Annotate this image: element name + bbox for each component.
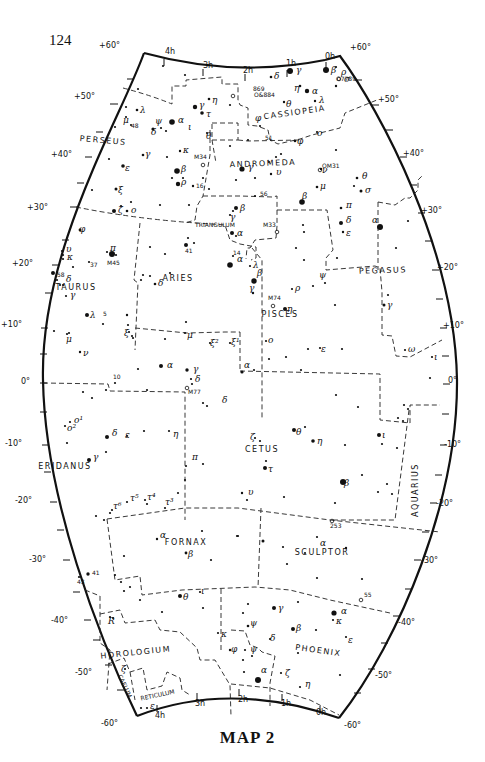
star-number-label: 58 — [57, 271, 65, 278]
star-greek-label: ψ — [155, 116, 163, 126]
declination-label: +60° — [350, 43, 371, 52]
star-greek-label: δ — [222, 395, 227, 405]
deep-sky-object-label: O7789 — [336, 75, 356, 82]
deep-sky-object-label: M74 — [268, 294, 281, 301]
declination-labels-right: +60°+50°+40°+30°+20°+10°0°-10°-20°-30°-4… — [344, 43, 464, 730]
star-greek-label: μ — [123, 115, 129, 125]
star-greek-label: μ — [187, 330, 193, 340]
star-greek-label: γ — [249, 283, 255, 293]
star-greek-label: β — [301, 191, 307, 201]
constellation-name: CETUS — [245, 445, 279, 454]
star-chart: +60°+50°+40°+30°+20°+10°0°-10°-20°-30°-4… — [0, 0, 485, 762]
star-greek-label: η — [287, 304, 293, 314]
star-number-label: 43 — [77, 578, 85, 585]
declination-label: +10° — [443, 321, 464, 330]
star-greek-label: τ⁶ — [113, 501, 122, 511]
star-greek-label: φ — [79, 224, 86, 234]
declination-label: +30° — [421, 206, 442, 215]
declination-label: 0° — [448, 376, 457, 385]
constellation-name: PISCES — [262, 310, 299, 319]
star-greek-label: ι — [188, 122, 192, 132]
star-number-label: 56 — [260, 190, 268, 197]
star-greek-label: ο² — [67, 423, 76, 433]
star-greek-label: β — [295, 623, 301, 633]
star-greek-label: θ — [362, 171, 368, 181]
constellation-name: TAURUS — [54, 283, 96, 292]
star-greek-label: δ — [270, 633, 275, 643]
star-number-label: 51 — [265, 134, 273, 141]
star-number-label: 253 — [330, 522, 342, 529]
star-greek-label: γ — [387, 300, 393, 310]
star-greek-label: β — [330, 65, 336, 75]
star-greek-label: θ — [286, 99, 292, 109]
constellation-name: ANDROMEDA — [230, 158, 297, 169]
star-greek-label: η — [317, 436, 323, 446]
star-greek-label: α — [320, 538, 326, 548]
declination-label: -30° — [29, 555, 46, 564]
declination-label: -20° — [15, 496, 32, 505]
declination-label: -50° — [375, 671, 392, 680]
declination-label: +50° — [378, 95, 399, 104]
star-greek-label: ε — [125, 430, 130, 440]
deep-sky-object-label: M77 — [188, 388, 201, 395]
star-greek-label: κ — [335, 616, 342, 626]
right-ascension-label: 0h — [325, 52, 335, 61]
star-greek-label: γ — [278, 603, 284, 613]
star-greek-label: λ — [318, 95, 325, 105]
declination-label: +20° — [437, 263, 458, 272]
star-greek-label: φ — [231, 644, 238, 654]
star-greek-label: η — [173, 429, 179, 439]
declination-label: +60° — [99, 41, 120, 50]
constellation-name: CASSIOPEIA — [263, 104, 326, 122]
constellation-name: PEGASUS — [359, 265, 407, 276]
declination-label: 0° — [21, 377, 30, 386]
star-greek-label: α — [341, 606, 347, 616]
declination-label: -60° — [101, 719, 118, 728]
deep-sky-object-label: O&884 — [254, 91, 275, 98]
declination-label: -40° — [398, 618, 415, 627]
constellation-name: HOROLOGIUM — [100, 644, 172, 660]
star-greek-label: ο — [317, 128, 323, 138]
declination-label: +30° — [27, 203, 48, 212]
star-greek-label: υ — [276, 167, 282, 177]
star-greek-label: γ — [93, 452, 99, 462]
deep-sky-object-label: M45 — [107, 259, 120, 266]
star-greek-label: μ — [66, 334, 72, 344]
star-greek-label: η — [305, 679, 311, 689]
star-greek-label: β — [180, 164, 186, 174]
constellation-name: SCULPTOR — [295, 548, 350, 557]
star-greek-label: ξ² — [210, 338, 219, 348]
star-greek-label: ξ — [118, 185, 124, 195]
constellation-name: CAELUM — [117, 673, 134, 698]
border-ticks — [40, 59, 450, 713]
star-greek-label: β — [239, 203, 245, 213]
deep-sky-object-label: M34 — [194, 153, 207, 160]
declination-label: +20° — [12, 259, 33, 268]
star-greek-label: ψ — [250, 618, 258, 628]
star-greek-label: ε — [346, 228, 351, 238]
star-number-labels: 4851165641375814510414355253 — [57, 122, 372, 598]
declination-label: -10° — [5, 439, 22, 448]
star-greek-label: δ — [151, 127, 156, 137]
star-greek-label: ε — [321, 344, 326, 354]
right-ascension-label: 4h — [155, 711, 165, 720]
star-greek-label: δ — [274, 71, 279, 81]
star-greek-label: ι — [382, 430, 386, 440]
right-ascension-label: 0h — [316, 708, 326, 717]
star-greek-label: τ³ — [165, 497, 174, 507]
declination-label: +10° — [1, 320, 22, 329]
star-greek-label: δ — [346, 215, 351, 225]
star-greek-label: β — [187, 549, 193, 559]
star-greek-label: γ — [248, 162, 254, 172]
star-greek-label: α — [167, 360, 173, 370]
star-greek-label: ζ — [118, 205, 124, 215]
star-greek-label: ι — [201, 586, 205, 596]
declination-label: -30° — [421, 556, 438, 565]
star-greek-label: ο — [268, 335, 274, 345]
star-greek-label: ρ — [294, 283, 301, 293]
constellation-name: ERIDANUS — [38, 462, 91, 471]
constellation-name: PHOENIX — [295, 643, 342, 658]
right-ascension-label: 1h — [281, 699, 291, 708]
star-greek-label: τ — [268, 464, 274, 474]
declination-label: -40° — [51, 616, 68, 625]
